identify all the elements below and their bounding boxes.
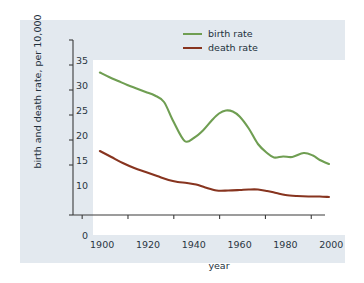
y-tick-label: 20 bbox=[76, 130, 88, 141]
x-axis-tick-labels: 190019201940196019802000 bbox=[93, 239, 345, 255]
legend-label-birth-rate: birth rate bbox=[208, 29, 253, 39]
chart-panel: birth and death rate, per 10,000 0101520… bbox=[20, 20, 345, 263]
x-tick-label: 1900 bbox=[90, 239, 114, 250]
line-death-rate bbox=[100, 151, 329, 197]
y-tick-label: 25 bbox=[76, 105, 88, 116]
y-tick-label: 35 bbox=[76, 55, 88, 66]
plot-area bbox=[93, 60, 345, 235]
legend-item-birth-rate: birth rate bbox=[183, 27, 258, 41]
y-tick-label: 0 bbox=[82, 230, 88, 241]
y-tick-label: 10 bbox=[76, 180, 88, 191]
legend-swatch-birth-rate bbox=[183, 33, 202, 36]
x-tick-label: 1940 bbox=[182, 239, 206, 250]
chart-plot-svg bbox=[93, 60, 345, 235]
x-tick-label: 1960 bbox=[228, 239, 252, 250]
series-lines bbox=[100, 73, 329, 198]
y-axis-tick-labels: 0101520253035 bbox=[64, 60, 88, 235]
y-axis-title: birth and death rate, per 10,000 bbox=[32, 12, 43, 172]
x-tick-label: 1920 bbox=[136, 239, 160, 250]
chart-legend: birth rate death rate bbox=[183, 27, 258, 55]
legend-swatch-death-rate bbox=[183, 47, 202, 50]
x-axis-title: year bbox=[93, 260, 345, 271]
legend-label-death-rate: death rate bbox=[208, 43, 258, 53]
x-tick-label: 2000 bbox=[319, 239, 343, 250]
y-tick-label: 30 bbox=[76, 80, 88, 91]
chart-figure: birth and death rate, per 10,000 0101520… bbox=[0, 0, 364, 283]
x-tick-label: 1980 bbox=[273, 239, 297, 250]
y-tick-label: 15 bbox=[76, 155, 88, 166]
line-birth-rate bbox=[100, 73, 329, 165]
legend-item-death-rate: death rate bbox=[183, 41, 258, 55]
